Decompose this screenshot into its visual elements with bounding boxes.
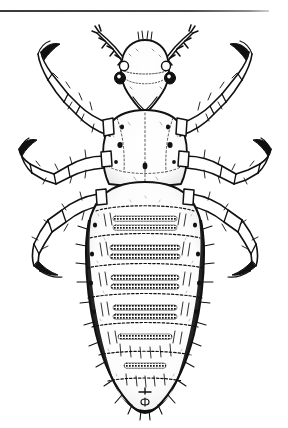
- abdomen: [76, 182, 214, 420]
- illustration-page: [0, 0, 288, 428]
- louse-illustration: [0, 14, 288, 428]
- head: [121, 31, 169, 115]
- leg-front-left: [38, 41, 110, 136]
- leg-middle-left: [19, 138, 104, 184]
- leg-front-right: [180, 41, 252, 136]
- antennal-base-left: [120, 61, 129, 71]
- eye-left: [115, 72, 126, 84]
- antennal-base-right: [162, 61, 171, 71]
- leg-middle-right: [186, 138, 271, 184]
- eye-right: [165, 72, 176, 84]
- thorax: [103, 110, 187, 188]
- top-horizontal-rule: [0, 10, 269, 12]
